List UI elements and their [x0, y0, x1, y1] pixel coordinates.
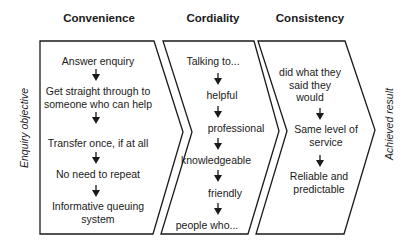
enquiry-objective-label: Enquiry objective	[18, 88, 30, 168]
convenience-item: Transfer once, if at all	[48, 137, 149, 150]
arrow-down-icon	[91, 152, 101, 164]
arrow-down-icon	[91, 112, 101, 124]
arrow-down-icon	[213, 138, 223, 150]
arrow-down-icon	[315, 108, 325, 120]
arrow-down-icon	[91, 69, 101, 81]
column-title-cordiality: Cordiality	[186, 12, 239, 24]
convenience-item: No need to repeat	[56, 168, 140, 181]
convenience-item: Answer enquiry	[62, 55, 134, 68]
arrow-down-icon	[315, 155, 325, 167]
cordiality-item: friendly	[208, 187, 242, 200]
column-title-convenience: Convenience	[63, 12, 135, 24]
cordiality-item: Talking to...	[186, 55, 239, 68]
convenience-item: Informative queuing system	[52, 200, 144, 225]
arrow-down-icon	[91, 185, 101, 197]
column-title-consistency: Consistency	[276, 12, 344, 24]
arrow-down-icon	[213, 73, 223, 85]
cordiality-item: people who...	[176, 219, 238, 232]
achieved-result-label: Achieved result	[383, 88, 395, 160]
cordiality-item: helpful	[207, 89, 238, 102]
cordiality-item: knowledgeable	[181, 154, 251, 167]
consistency-item: did what they said they would	[279, 66, 341, 104]
consistency-item: Same level of service	[294, 123, 358, 148]
cordiality-item: professional	[208, 122, 265, 135]
arrow-down-icon	[213, 170, 223, 182]
arrow-down-icon	[213, 203, 223, 215]
arrow-down-icon	[213, 106, 223, 118]
consistency-item: Reliable and predictable	[290, 170, 348, 195]
convenience-item: Get straight through to someone who can …	[44, 85, 152, 110]
